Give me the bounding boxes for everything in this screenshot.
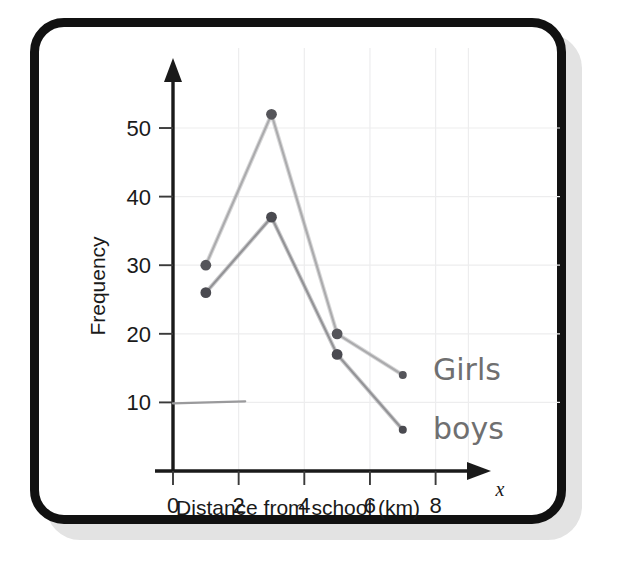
x-axis-title: Distance from school (km)	[176, 496, 420, 519]
data-point-boys-1	[266, 212, 277, 223]
x-axis-arrow-icon	[467, 462, 491, 480]
series-label-boys: boys	[433, 411, 504, 446]
x-axis-variable-label: x	[495, 478, 505, 500]
data-point-boys-2	[332, 349, 343, 360]
y-tick-label: 30	[127, 253, 151, 278]
data-point-girls-0	[200, 260, 211, 271]
data-point-boys-3	[399, 426, 407, 434]
y-tick-label: 10	[127, 390, 151, 415]
data-point-girls-3	[399, 371, 407, 379]
chart-figure: 1020304050 02468 Girls boys Distance fro…	[30, 18, 566, 524]
y-tick-group: 1020304050	[127, 116, 173, 415]
y-axis-arrow-icon	[164, 58, 182, 82]
y-tick-label: 50	[127, 116, 151, 141]
stray-pencil-mark	[173, 401, 245, 403]
chart-svg: 1020304050 02468 Girls boys Distance fro…	[30, 18, 566, 524]
data-point-girls-1	[266, 109, 277, 120]
x-tick-label: 8	[429, 493, 441, 518]
data-point-girls-2	[332, 328, 343, 339]
series-group	[200, 109, 406, 434]
y-axis-title: Frequency	[86, 236, 109, 336]
y-tick-label: 20	[127, 322, 151, 347]
series-label-girls: Girls	[433, 352, 501, 387]
data-point-boys-0	[200, 287, 211, 298]
grid	[173, 48, 560, 471]
y-tick-label: 40	[127, 185, 151, 210]
